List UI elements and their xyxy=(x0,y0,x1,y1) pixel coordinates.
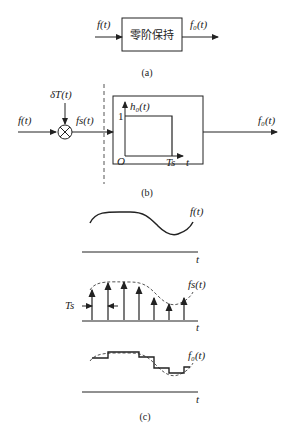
input-label: f(t) xyxy=(18,114,32,127)
axis-label: t xyxy=(196,321,200,333)
sampled-label: fs(t) xyxy=(76,114,94,127)
hold-block xyxy=(113,96,203,164)
staircase-output xyxy=(92,352,190,373)
continuous-signal-plot: f(t) t xyxy=(82,205,204,265)
axis-label: t xyxy=(196,393,200,405)
envelope-dashed-curve xyxy=(90,282,193,305)
curve-label: f(t) xyxy=(190,205,204,218)
y-label: h₀(t) xyxy=(130,100,150,113)
panel-c: f(t) t Ts fs(t) t xyxy=(65,205,206,423)
axis-label: t xyxy=(196,253,200,265)
panel-b: f(t) δT(t) fs(t) h₀(t) 1 O Ts t f₀(t) (b… xyxy=(18,84,277,199)
multiplier-icon xyxy=(58,125,72,139)
impulse-train-label: δT(t) xyxy=(50,88,72,101)
caption-c: (c) xyxy=(139,411,150,423)
impulse-response-plot: h₀(t) 1 O Ts t xyxy=(117,100,190,168)
curve-label: f₀(t) xyxy=(188,349,206,362)
y-tick: 1 xyxy=(118,110,124,122)
origin-label: O xyxy=(117,155,125,167)
output-label: f₀(t) xyxy=(190,18,208,31)
x-label: t xyxy=(186,156,190,168)
signal-curve xyxy=(90,212,193,235)
panel-a: f(t) 零阶保持 f₀(t) (a) xyxy=(95,18,218,79)
input-label: f(t) xyxy=(97,18,111,31)
caption-b: (b) xyxy=(141,187,153,199)
curve-label: fs(t) xyxy=(188,278,206,291)
hold-output-plot: f₀(t) t xyxy=(82,349,206,405)
rect-pulse xyxy=(125,116,172,156)
zero-order-hold-diagram: f(t) 零阶保持 f₀(t) (a) f(t) δT(t) fs(t) h₀(… xyxy=(0,0,295,435)
sample-impulses xyxy=(92,282,184,320)
output-label: f₀(t) xyxy=(258,114,276,127)
sampled-signal-plot: Ts fs(t) t xyxy=(65,278,206,333)
caption-a: (a) xyxy=(141,67,152,79)
period-label: Ts xyxy=(65,299,74,311)
x-tick: Ts xyxy=(166,156,175,168)
block-label: 零阶保持 xyxy=(130,28,174,42)
